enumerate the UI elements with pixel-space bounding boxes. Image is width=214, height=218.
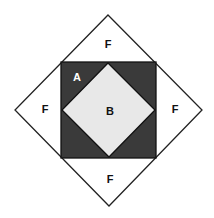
- label-b: B: [106, 105, 114, 117]
- label-f-left: F: [42, 103, 49, 115]
- label-f-bottom: F: [107, 173, 114, 185]
- label-f-top: F: [105, 38, 112, 50]
- label-a: A: [73, 71, 81, 83]
- label-f-right: F: [172, 103, 179, 115]
- geometry-diagram: F F F F A B: [0, 0, 214, 218]
